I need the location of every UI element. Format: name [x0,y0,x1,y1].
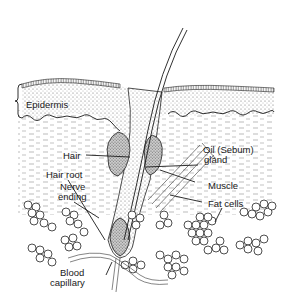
label-oil-2: gland [204,154,227,165]
skin-diagram: Epidermis Hair Hair root Nerve ending Oi… [0,0,289,301]
label-muscle: Muscle [208,180,238,191]
label-blood-2: capillary [50,277,85,288]
label-hair: Hair [63,150,80,161]
label-hair-root: Hair root [46,169,83,180]
label-fat-cells: Fat cells [208,198,244,209]
label-nerve-2: ending [58,191,87,202]
label-epidermis: Epidermis [26,99,68,110]
